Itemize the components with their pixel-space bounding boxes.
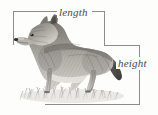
paw-hind [85,90,91,93]
length-label: length [57,7,90,18]
length-right-tick [104,11,105,46]
coyote-measurement-figure: length height [0,0,158,115]
length-left-tick [13,11,14,45]
height-bottom-rule [45,104,140,105]
height-top-rule [104,45,140,46]
eye [30,34,33,36]
height-label: height [116,58,149,69]
height-right-rule-upper [139,45,140,57]
height-right-rule-lower [139,70,140,105]
length-top-rule-left [13,11,57,12]
nose [14,38,18,41]
paw-front [44,91,50,94]
